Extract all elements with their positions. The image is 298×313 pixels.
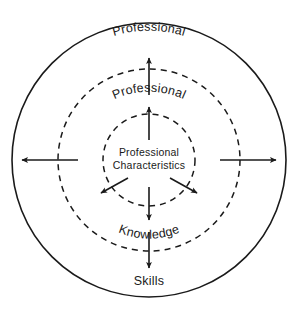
label-middle-top-textpath: Professional xyxy=(110,81,188,102)
label-outer-bottom: Skills xyxy=(134,274,164,288)
diagram-container: Professional Professional Professional C… xyxy=(0,0,298,313)
label-middle-bottom-textpath: Knowledge xyxy=(117,222,181,242)
label-center-line2: Characteristics xyxy=(113,159,185,171)
label-outer-top-textpath: Professional xyxy=(111,20,187,39)
concentric-circles-diagram: Professional Professional Professional C… xyxy=(0,0,298,313)
label-middle-bottom: Knowledge xyxy=(117,222,181,242)
label-center-line1: Professional xyxy=(119,146,179,158)
label-middle-top: Professional xyxy=(110,81,188,102)
label-outer-top: Professional xyxy=(111,20,187,39)
